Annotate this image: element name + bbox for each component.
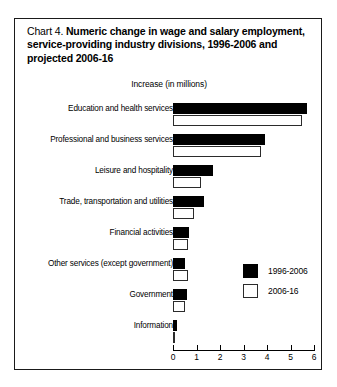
- bar-1996-2006: [173, 258, 185, 269]
- legend-swatch-light-icon: [243, 284, 258, 298]
- x-axis-tick-label: 5: [283, 352, 299, 362]
- x-axis-tick-label: 6: [306, 352, 322, 362]
- bar-1996-2006: [173, 227, 189, 238]
- bar-2006-16: [173, 177, 201, 188]
- category-label: Information: [23, 321, 173, 331]
- x-axis-tick: [173, 345, 174, 351]
- category-label: Financial activities: [23, 228, 173, 238]
- x-axis-tick: [291, 345, 292, 351]
- category-label: Education and health services: [23, 104, 173, 114]
- x-axis-tick: [220, 345, 221, 351]
- category-label: Professional and business services: [23, 135, 173, 145]
- x-axis-title: Increase (in millions): [15, 79, 323, 89]
- x-axis-tick: [244, 345, 245, 351]
- bar-2006-16: [173, 146, 261, 157]
- x-axis-tick: [314, 345, 315, 351]
- legend-label: 2006-16: [268, 286, 299, 296]
- x-axis-tick-label: 1: [189, 352, 205, 362]
- chart-title-text: Numeric change in wage and salary employ…: [27, 25, 305, 64]
- chart-category-row: Trade, transportation and utilities: [15, 196, 321, 219]
- x-axis-tick-label: 2: [212, 352, 228, 362]
- bar-1996-2006: [173, 320, 177, 331]
- bar-2006-16: [173, 239, 188, 250]
- bar-1996-2006: [173, 103, 307, 114]
- chart-number: Chart 4.: [27, 25, 63, 37]
- bar-2006-16: [173, 301, 185, 312]
- bar-2006-16: [173, 332, 175, 343]
- legend-swatch-dark-icon: [243, 264, 258, 278]
- bar-1996-2006: [173, 134, 265, 145]
- x-axis-tick: [267, 345, 268, 351]
- chart-category-row: Professional and business services: [15, 134, 321, 157]
- x-axis-tick-label: 0: [165, 352, 181, 362]
- x-axis-tick: [197, 345, 198, 351]
- chart-title: Chart 4. Numeric change in wage and sala…: [27, 25, 309, 65]
- chart-panel: Chart 4. Numeric change in wage and sala…: [14, 18, 322, 370]
- plot-area: Education and health servicesProfessiona…: [15, 95, 321, 357]
- category-label: Government: [23, 290, 173, 300]
- bar-1996-2006: [173, 196, 204, 207]
- category-label: Other services (except government): [23, 259, 173, 269]
- chart-category-row: Information: [15, 320, 321, 343]
- x-axis-tick-label: 3: [236, 352, 252, 362]
- bar-2006-16: [173, 208, 194, 219]
- legend-label: 1996-2006: [268, 266, 308, 276]
- chart-category-row: Leisure and hospitality: [15, 165, 321, 188]
- category-label: Leisure and hospitality: [23, 166, 173, 176]
- bar-1996-2006: [173, 165, 213, 176]
- chart-category-row: Education and health services: [15, 103, 321, 126]
- bar-2006-16: [173, 115, 302, 126]
- bar-1996-2006: [173, 289, 187, 300]
- category-label: Trade, transportation and utilities: [23, 197, 173, 207]
- x-axis-tick-label: 4: [259, 352, 275, 362]
- chart-category-row: Financial activities: [15, 227, 321, 250]
- bar-2006-16: [173, 270, 188, 281]
